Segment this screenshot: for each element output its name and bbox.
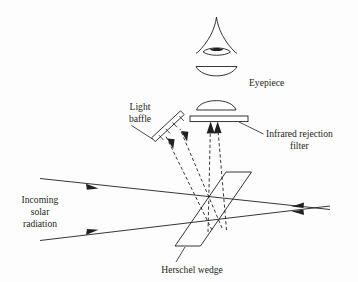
filter-ray-2-arrowhead (214, 122, 222, 134)
ir-filter-label-line1: Infrared rejection (266, 128, 333, 139)
incoming-ray-upper (40, 179, 330, 210)
field-lens (197, 101, 237, 110)
baffle-body (152, 111, 185, 142)
light-baffle (152, 111, 185, 142)
eyepiece-label: Eyepiece (249, 77, 284, 88)
light-baffle-leader-line (132, 126, 153, 140)
optical-diagram-figure: Eyepiece Light baffle Infrared rejection… (0, 0, 358, 282)
ir-filter-label-group: Infrared rejection filter (239, 122, 333, 151)
reflected-rays-to-baffle (166, 129, 222, 230)
ir-filter-label-line2: filter (290, 140, 309, 151)
incoming-label-line2: solar (31, 206, 50, 217)
baffle-ray-1-arrowhead (167, 139, 175, 150)
filter-ray-1-arrowhead (207, 122, 215, 134)
herschel-wedge-label: Herschel wedge (161, 264, 223, 275)
outgoing-transmitted-rays (292, 203, 305, 216)
incoming-solar-radiation-label-group: Incoming solar radiation (22, 194, 59, 229)
light-baffle-label-line1: Light (130, 101, 151, 112)
ir-filter-leader-line (239, 122, 264, 134)
incoming-label-line3: radiation (23, 218, 57, 229)
herschel-wedge (175, 172, 252, 246)
herschel-wedge-label-group: Herschel wedge (161, 247, 223, 275)
light-baffle-label-group: Light baffle (129, 101, 153, 139)
infrared-rejection-filter (190, 116, 248, 122)
eyepiece-lens (196, 67, 237, 76)
light-baffle-label-line2: baffle (129, 113, 151, 124)
herschel-wedge-body (175, 172, 252, 246)
filter-ray-1 (208, 124, 211, 232)
observer-eye (196, 17, 237, 55)
herschel-wedge-leader-line (176, 247, 185, 262)
incoming-ray-lower (40, 206, 330, 241)
incoming-label-line1: Incoming (22, 194, 59, 205)
optical-diagram-canvas: Eyepiece Light baffle Infrared rejection… (0, 0, 358, 282)
eye-lower-lid (203, 52, 231, 55)
